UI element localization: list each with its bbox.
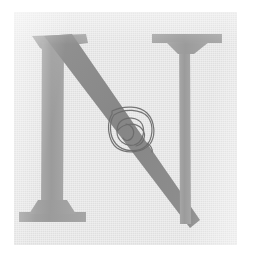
letter-n-left-foot-bracket [29,200,76,214]
letter-n-diagonal [44,34,200,228]
letter-n-top-right-serif [152,34,222,43]
scanned-page: Scanned page fragment: large serif capit… [0,0,254,259]
letter-n-left-stem [41,42,64,210]
glyph-layer [14,12,237,245]
letter-n-right-stem [179,36,191,224]
scanned-paper-panel [14,12,237,245]
letter-n-top-right-bracket [166,42,209,54]
letter-n-glyph [14,12,237,245]
